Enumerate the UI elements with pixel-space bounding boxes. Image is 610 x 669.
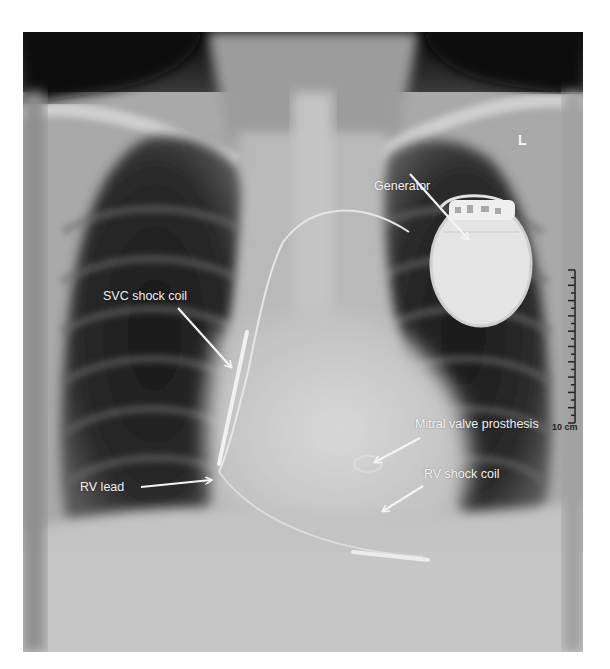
side-marker-left: L [518, 133, 527, 147]
annotation-label-rv-shock-coil: RV shock coil [424, 468, 500, 481]
scale-bar-label: 10 cm [552, 423, 578, 432]
chest-radiograph: L 10 cm Generator SVC shock coil Mitral … [23, 32, 583, 652]
annotation-label-generator: Generator [374, 180, 430, 193]
radiograph-image [23, 32, 583, 652]
annotation-label-mitral-valve-prosthesis: Mitral valve prosthesis [415, 418, 539, 431]
annotation-label-rv-lead: RV lead [80, 481, 124, 494]
annotation-label-svc-shock-coil: SVC shock coil [103, 290, 187, 303]
